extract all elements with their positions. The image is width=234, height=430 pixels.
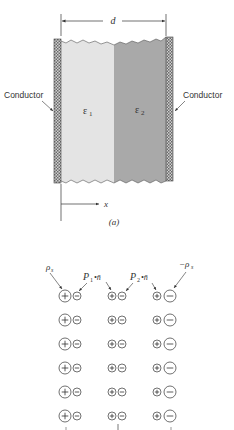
charge-grid [59,290,176,422]
figure-b: ρ s P 1 •n̄ P 2 •n̄ −ρ s [45,259,194,430]
p1-dot-n: •n̄ [94,273,101,282]
neg-rho-s-label: −ρ [179,259,190,269]
dimension-label: d [111,15,117,26]
dielectric-1-region [61,40,114,183]
dielectric-2-region [114,37,166,183]
x-axis-label: x [103,199,108,209]
right-conductor [166,37,173,181]
p1-label: P [82,271,89,282]
neg-rho-s-subscript: s [191,264,194,270]
capacitor-diagram: d Conductor Conductor ε 1 ε 2 x (a) ρ s [0,0,234,430]
p2-subscript: 2 [137,277,140,283]
epsilon-2-subscript: 2 [141,109,145,117]
figure-a: d Conductor Conductor ε 1 ε 2 x (a) [4,14,222,227]
p2-dot-n: •n̄ [141,273,148,282]
epsilon-1-subscript: 1 [89,110,93,118]
epsilon-2-symbol: ε [135,104,139,115]
dimension-d: d [61,14,166,36]
left-conductor [54,39,61,183]
epsilon-1-symbol: ε [83,105,87,116]
p1-subscript: 1 [90,277,93,283]
rho-s-subscript: s [51,267,54,273]
p2-label: P [129,271,136,282]
right-conductor-label: Conductor [183,90,222,100]
left-conductor-label: Conductor [4,90,43,100]
caption-a: (a) [109,217,120,227]
